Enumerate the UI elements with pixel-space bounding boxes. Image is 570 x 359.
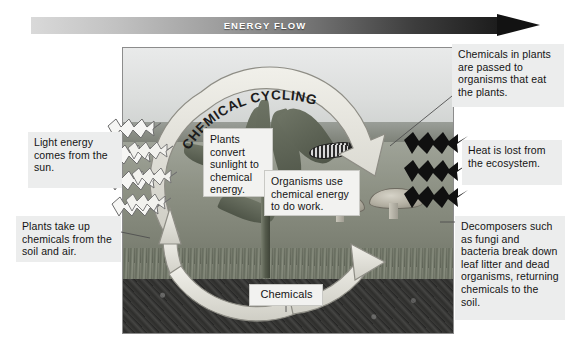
callout-chemicals-passed: Chemicals in plants are passed to organi… bbox=[452, 44, 564, 107]
energy-flow-label: ENERGY FLOW bbox=[31, 17, 499, 34]
callout-organisms-use: Organisms use chemical energy to do work… bbox=[264, 170, 360, 216]
callout-light-energy: Light energy comes from the sun. bbox=[28, 132, 122, 188]
callout-heat-lost: Heat is lost from the ecosystem. bbox=[462, 140, 562, 185]
diagram-root: ENERGY FLOW bbox=[0, 0, 570, 359]
energy-flow-banner: ENERGY FLOW bbox=[31, 14, 540, 37]
callout-plants-uptake: Plants take up chemicals from the soil a… bbox=[16, 216, 121, 262]
right-arrow-icon bbox=[497, 14, 540, 36]
callout-chemicals: Chemicals bbox=[249, 284, 323, 306]
callout-plants-convert: Plants convert sunlight to chemical ener… bbox=[203, 128, 273, 197]
callout-decomposers: Decomposers such as fungi and bacteria b… bbox=[455, 216, 565, 320]
